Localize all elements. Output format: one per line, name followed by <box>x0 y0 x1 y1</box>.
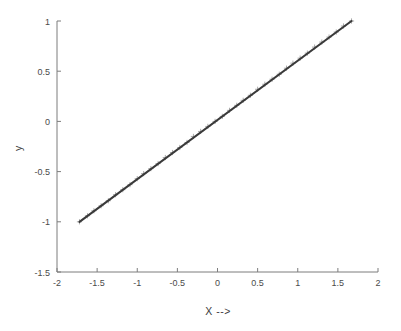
x-axis-label: X --> <box>205 305 231 317</box>
x-tick-label: 1 <box>295 278 300 288</box>
y-tick-label: -1.5 <box>34 268 50 278</box>
y-tick-label: -1 <box>42 217 50 227</box>
x-tick-label: -1.5 <box>89 278 105 288</box>
y-tick-label: 0.5 <box>37 67 50 77</box>
x-tick-label: 2 <box>375 278 380 288</box>
chart-figure: -2-1.5-1-0.500.511.52 -1.5-1-0.500.51 X … <box>0 0 401 331</box>
y-tick-label: 1 <box>45 17 50 27</box>
x-tick-label: 1.5 <box>332 278 345 288</box>
y-axis-label: y <box>12 145 24 151</box>
x-tick-label: -1 <box>133 278 141 288</box>
y-tick-label: -0.5 <box>34 167 50 177</box>
plot-canvas: -2-1.5-1-0.500.511.52 -1.5-1-0.500.51 X … <box>0 0 401 331</box>
x-tick-label: 0.5 <box>251 278 264 288</box>
x-tick-label: -2 <box>53 278 61 288</box>
x-axis-tick-labels: -2-1.5-1-0.500.511.52 <box>53 278 381 288</box>
x-tick-label: 0 <box>215 278 220 288</box>
y-tick-label: 0 <box>45 117 50 127</box>
x-tick-label: -0.5 <box>170 278 186 288</box>
